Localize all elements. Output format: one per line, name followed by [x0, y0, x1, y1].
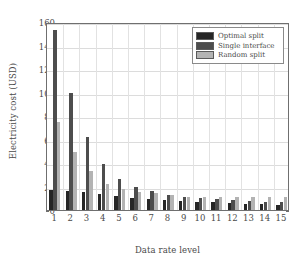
gridline-horizontal	[47, 142, 288, 143]
bar	[203, 197, 206, 211]
bar	[106, 184, 109, 210]
bar	[57, 122, 60, 210]
bar	[235, 197, 238, 211]
gridline-vertical	[128, 24, 129, 210]
gridline-horizontal	[47, 118, 288, 119]
x-axis-title: Data rate level	[46, 245, 289, 255]
bar	[219, 197, 222, 211]
chart-legend: Optimal splitSingle interfaceRandom spli…	[192, 27, 284, 64]
bar	[251, 197, 254, 211]
legend-label: Optimal split	[218, 32, 264, 40]
legend-swatch	[196, 32, 214, 40]
gridline-vertical	[96, 24, 97, 210]
gridline-horizontal	[47, 189, 288, 190]
chart-figure: Electricity cost (USD) Data rate level 0…	[0, 0, 307, 267]
bar	[170, 195, 173, 210]
gridline-vertical	[79, 24, 80, 210]
legend-label: Single interface	[218, 42, 275, 50]
gridline-vertical	[177, 24, 178, 210]
gridline-horizontal	[47, 24, 288, 25]
gridline-vertical	[144, 24, 145, 210]
legend-item: Random split	[196, 51, 279, 60]
legend-swatch	[196, 51, 214, 59]
gridline-horizontal	[47, 165, 288, 166]
bar	[154, 193, 157, 210]
x-tick-label: 15	[271, 214, 291, 223]
legend-swatch	[196, 42, 214, 50]
gridline-horizontal	[47, 95, 288, 96]
bar	[187, 197, 190, 211]
bar	[268, 197, 271, 211]
bar	[138, 192, 141, 210]
y-tick-mark	[46, 211, 49, 212]
gridline-vertical	[112, 24, 113, 210]
legend-label: Random split	[218, 51, 265, 59]
bar	[73, 152, 76, 210]
gridline-vertical	[63, 24, 64, 210]
bar	[284, 197, 287, 211]
bar	[89, 171, 92, 210]
y-tick-mark	[286, 211, 289, 212]
bar	[122, 189, 125, 210]
legend-item: Single interface	[196, 41, 279, 50]
gridline-vertical	[160, 24, 161, 210]
gridline-horizontal	[47, 71, 288, 72]
legend-item: Optimal split	[196, 32, 279, 41]
